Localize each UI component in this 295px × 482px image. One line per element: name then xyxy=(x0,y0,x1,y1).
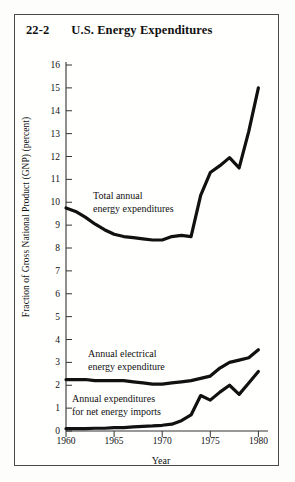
y-axis-tick-label: 15 xyxy=(40,83,60,93)
x-axis-tick-label: 1980 xyxy=(238,436,278,446)
x-axis-tick-label: 1975 xyxy=(190,436,230,446)
x-axis-tick-label: 1965 xyxy=(94,436,134,446)
y-axis-tick-label: 5 xyxy=(40,312,60,322)
chart-plot-area: Fraction of Gross National Product (GNP)… xyxy=(0,0,295,482)
annotation-total-expenditures: Total annual energy expenditures xyxy=(93,190,174,215)
y-axis-tick-label: 11 xyxy=(40,174,60,184)
y-axis-tick-label: 16 xyxy=(40,60,60,70)
y-axis-tick-label: 13 xyxy=(40,129,60,139)
y-axis-tick-label: 3 xyxy=(40,357,60,367)
x-axis-tick-label: 1970 xyxy=(142,436,182,446)
y-axis-tick-label: 9 xyxy=(40,220,60,230)
y-axis-tick-label: 12 xyxy=(40,152,60,162)
y-axis-tick-label: 8 xyxy=(40,243,60,253)
annotation-total-line2: energy expenditures xyxy=(93,203,174,216)
data-series-line-1 xyxy=(66,88,258,240)
y-axis-label: Fraction of Gross National Product (GNP)… xyxy=(21,87,31,347)
annotation-electrical-line1: Annual electrical xyxy=(88,348,165,361)
annotation-total-line1: Total annual xyxy=(93,190,174,203)
y-axis-tick-label: 6 xyxy=(40,289,60,299)
annotation-electrical-line2: energy expenditure xyxy=(88,361,165,374)
y-axis-tick-label: 7 xyxy=(40,266,60,276)
y-axis-ticks xyxy=(66,65,72,431)
y-axis-tick-label: 2 xyxy=(40,380,60,390)
figure-panel: 22-2 U.S. Energy Expenditures Fraction o… xyxy=(0,0,295,482)
y-axis-tick-label: 14 xyxy=(40,106,60,116)
x-axis-tick-label: 1960 xyxy=(46,436,86,446)
annotation-electrical-expenditure: Annual electrical energy expenditure xyxy=(88,348,165,373)
y-axis-tick-label: 1 xyxy=(40,403,60,413)
annotation-imports-line2: for net energy imports xyxy=(72,406,161,419)
annotation-imports-line1: Annual expenditures xyxy=(72,393,161,406)
data-series-group xyxy=(66,88,258,429)
annotation-net-imports: Annual expenditures for net energy impor… xyxy=(72,393,161,418)
y-axis-tick-label: 0 xyxy=(40,426,60,436)
y-axis-tick-label: 10 xyxy=(40,197,60,207)
x-axis-label: Year xyxy=(66,455,256,466)
y-axis-tick-label: 4 xyxy=(40,335,60,345)
